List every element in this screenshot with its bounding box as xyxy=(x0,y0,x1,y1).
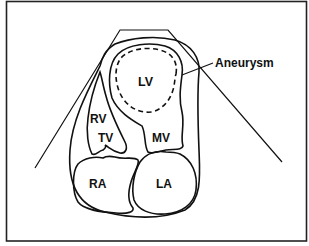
label-aneurysm: Aneurysm xyxy=(215,56,274,70)
label-rv: RV xyxy=(90,112,106,126)
label-ra: RA xyxy=(89,177,107,191)
label-lv: LV xyxy=(138,75,154,89)
heart-diagram-figure: LV RV TV MV RA LA Aneurysm xyxy=(0,0,309,246)
heart-diagram-svg: LV RV TV MV RA LA Aneurysm xyxy=(0,0,309,246)
label-mv: MV xyxy=(152,131,170,145)
lv-wall xyxy=(110,44,183,153)
ultrasound-sector xyxy=(35,30,282,168)
label-la: LA xyxy=(156,177,172,191)
label-tv: TV xyxy=(98,131,113,145)
